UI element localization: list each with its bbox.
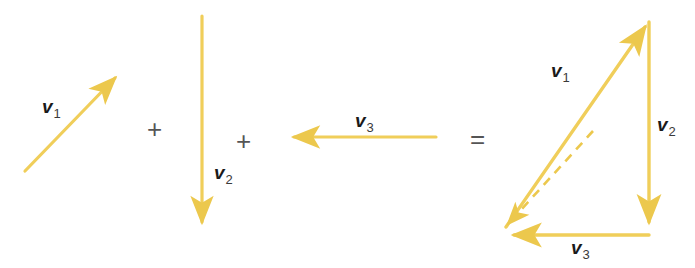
label-v3-operand-subscript: 3 <box>367 120 374 135</box>
label-v1-operand-subscript: 1 <box>54 106 61 121</box>
label-v3-operand-text: v <box>355 110 366 131</box>
vector-diagram-canvas <box>0 0 695 268</box>
label-v3-resultant-text: v <box>571 237 582 258</box>
label-v2-operand: v2 <box>214 163 233 186</box>
label-v2-operand-subscript: 2 <box>226 172 233 187</box>
label-v3-resultant-subscript: 3 <box>583 247 590 262</box>
vector-arrow-resultant-dashed <box>508 131 593 224</box>
operator-plus-second: + <box>236 128 251 154</box>
label-v3-resultant: v3 <box>571 238 590 261</box>
label-v1-resultant-subscript: 1 <box>563 70 570 85</box>
label-v1-operand: v1 <box>42 97 61 120</box>
label-v2-operand-text: v <box>214 162 225 183</box>
label-v2-resultant: v2 <box>657 115 676 138</box>
label-v1-resultant-text: v <box>551 60 562 81</box>
label-v1-resultant: v1 <box>551 61 570 84</box>
vector-arrow-v1-resultant <box>506 27 645 227</box>
label-v3-operand: v3 <box>355 111 374 134</box>
vector-arrow-v1-operand <box>25 78 115 171</box>
operator-equals: = <box>470 126 485 152</box>
label-v2-resultant-text: v <box>657 114 668 135</box>
vector-addition-figure: v1 v2 v3 v1 v2 v3 + + = <box>0 0 695 268</box>
operator-plus-first: + <box>147 116 162 142</box>
label-v1-operand-text: v <box>42 96 53 117</box>
label-v2-resultant-subscript: 2 <box>669 124 676 139</box>
